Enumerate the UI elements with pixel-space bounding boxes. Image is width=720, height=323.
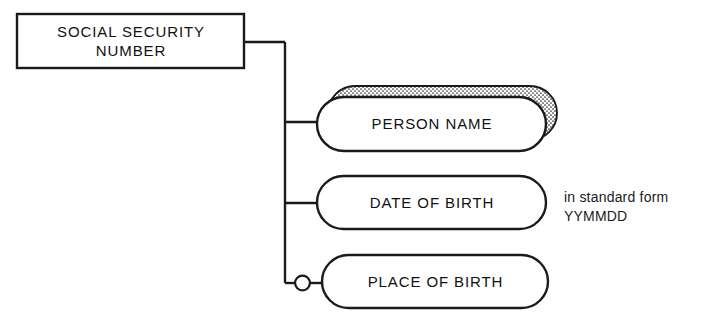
connector-group — [244, 42, 324, 283]
annotation-date-format-note: in standard form YYMMDD — [564, 188, 714, 226]
attribute-box-date-of-birth[interactable] — [317, 176, 546, 229]
diagram-canvas — [0, 0, 720, 323]
optional-marker-circle-icon — [295, 276, 310, 291]
entity-box-social-security-number[interactable] — [17, 14, 244, 68]
attribute-box-person-name[interactable] — [317, 97, 546, 151]
attribute-box-place-of-birth[interactable] — [322, 255, 548, 308]
